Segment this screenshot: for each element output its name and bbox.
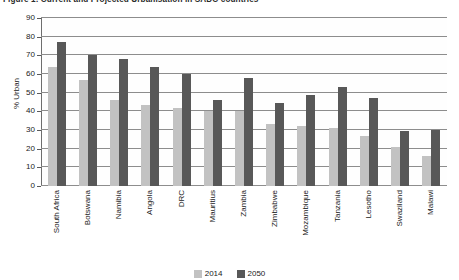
bar-2050 — [244, 78, 253, 186]
legend-label: 2014 — [205, 270, 223, 278]
x-tick-label: Namibia — [103, 188, 134, 250]
bar-2014 — [266, 124, 275, 186]
bar-2050 — [88, 55, 97, 186]
x-tick-label-text: Zimbabwe — [271, 190, 279, 227]
x-tick-label: Mauritius — [197, 188, 228, 250]
x-tick-label-text: Malawi — [427, 190, 435, 215]
x-tick-label: Swaziland — [385, 188, 416, 250]
y-tick-label: 60 — [26, 70, 35, 78]
bar-group — [41, 18, 72, 186]
bar-group — [322, 18, 353, 186]
y-tick-label: 40 — [26, 107, 35, 115]
x-tick-label-text: Lesotho — [365, 190, 373, 218]
bar-2050 — [431, 130, 440, 186]
bar-group — [72, 18, 103, 186]
bar-group — [166, 18, 197, 186]
bar-group — [228, 18, 259, 186]
legend-swatch — [237, 270, 245, 278]
bar-2014 — [422, 156, 431, 186]
bar-2050 — [57, 42, 66, 186]
bar-2014 — [79, 80, 88, 186]
bar-group — [353, 18, 384, 186]
y-tick-label: 50 — [26, 89, 35, 97]
bar-2050 — [369, 98, 378, 186]
bar-2050 — [338, 87, 347, 186]
legend-item: 2050 — [237, 270, 266, 278]
x-tick-label-text: South Africa — [53, 190, 61, 233]
x-tick-label-text: Mozambique — [302, 190, 310, 236]
x-tick-label-text: Angola — [146, 190, 154, 215]
bar-2014 — [48, 67, 57, 186]
x-tick-label: Lesotho — [353, 188, 384, 250]
plot-area: 0102030405060708090 — [41, 18, 447, 186]
x-tick-label: Tanzania — [322, 188, 353, 250]
bar-2050 — [306, 95, 315, 186]
x-tick-label: Mozambique — [291, 188, 322, 250]
y-tick-label: 10 — [26, 163, 35, 171]
bar-2014 — [235, 111, 244, 186]
bar-2014 — [204, 111, 213, 186]
bar-2014 — [391, 147, 400, 186]
bar-2014 — [173, 108, 182, 186]
bar-2050 — [213, 100, 222, 186]
x-tick-label-text: Botswana — [84, 190, 92, 225]
bar-2014 — [360, 136, 369, 186]
x-tick-label: South Africa — [41, 188, 72, 250]
bar-group — [260, 18, 291, 186]
y-tick-label: 80 — [26, 33, 35, 41]
x-tick-label-text: Swaziland — [396, 190, 404, 226]
y-tick-label: 20 — [26, 145, 35, 153]
bar-group — [291, 18, 322, 186]
figure-title: Figure 1: Current and Projected Urbanisa… — [3, 0, 259, 4]
y-tick-label: 30 — [26, 126, 35, 134]
x-tick-label: Zambia — [228, 188, 259, 250]
bar-2050 — [150, 67, 159, 186]
x-tick-label: Angola — [135, 188, 166, 250]
bar-2050 — [275, 103, 284, 186]
bar-2014 — [141, 105, 150, 186]
bar-group — [103, 18, 134, 186]
x-tick-label-text: Namibia — [115, 190, 123, 219]
bar-2050 — [119, 59, 128, 186]
bar-2050 — [400, 131, 409, 186]
x-tick-label-text: Tanzania — [334, 190, 342, 222]
bar-2014 — [329, 128, 338, 186]
x-tick-label-text: Zambia — [240, 190, 248, 217]
bar-2050 — [182, 74, 191, 186]
chart-legend: 20142050 — [0, 270, 459, 278]
y-tick-label: 70 — [26, 51, 35, 59]
bar-series-container — [41, 18, 447, 186]
x-tick-label: DRC — [166, 188, 197, 250]
x-tick-label: Malawi — [416, 188, 447, 250]
y-tick-label: 90 — [26, 14, 35, 22]
y-tick-mark — [37, 186, 41, 187]
legend-label: 2050 — [248, 270, 266, 278]
bar-2014 — [297, 126, 306, 186]
x-axis-category-labels: South AfricaBotswanaNamibiaAngolaDRCMaur… — [41, 188, 447, 250]
bar-group — [197, 18, 228, 186]
bar-group — [385, 18, 416, 186]
y-tick-label: 0 — [31, 182, 35, 190]
bar-group — [135, 18, 166, 186]
x-tick-label: Botswana — [72, 188, 103, 250]
bar-chart: % Urban 0102030405060708090 South Africa… — [0, 11, 459, 259]
bar-2014 — [110, 100, 119, 186]
bar-group — [416, 18, 447, 186]
legend-item: 2014 — [194, 270, 223, 278]
x-tick-label-text: Mauritius — [209, 190, 217, 222]
x-tick-label-text: DRC — [178, 190, 186, 207]
legend-swatch — [194, 270, 202, 278]
y-axis-title: % Urban — [12, 64, 21, 124]
x-tick-label: Zimbabwe — [260, 188, 291, 250]
